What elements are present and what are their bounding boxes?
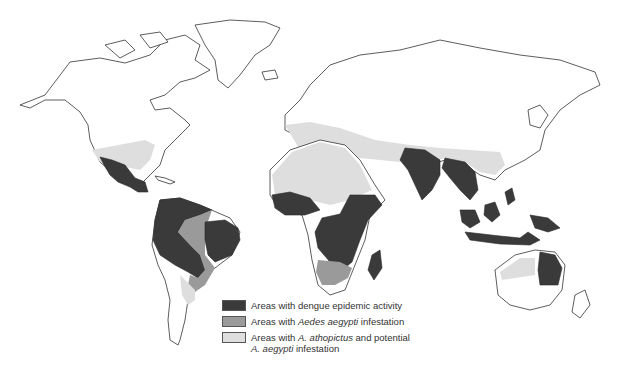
africa	[270, 140, 385, 295]
legend-text: Areas with	[251, 332, 298, 343]
legend-swatch-light	[222, 332, 246, 343]
legend-swatch-medium	[222, 316, 246, 327]
legend-item-dengue-epidemic: Areas with dengue epidemic activity	[222, 300, 462, 311]
map-legend: Areas with dengue epidemic activity Area…	[222, 300, 462, 359]
world-map: Areas with dengue epidemic activity Area…	[0, 0, 623, 377]
legend-species: A. athopictus	[298, 332, 353, 343]
legend-species: A. aegypti	[251, 343, 293, 354]
legend-label-dengue-epidemic: Areas with dengue epidemic activity	[251, 300, 402, 311]
australia	[495, 250, 590, 318]
north-america	[20, 20, 280, 192]
legend-species: Aedes aegypti	[298, 316, 358, 327]
legend-label-albopictus: Areas with A. athopictus and potentialA.…	[251, 332, 410, 354]
legend-text: infestation	[358, 316, 404, 327]
southeast-asia	[460, 188, 560, 245]
legend-text: Areas with	[251, 316, 298, 327]
legend-swatch-dark	[222, 300, 246, 311]
legend-label-aedes-aegypti: Areas with Aedes aegypti infestation	[251, 316, 404, 327]
legend-text: and potential	[353, 332, 410, 343]
legend-text: infestation	[293, 343, 339, 354]
legend-item-albopictus: Areas with A. athopictus and potentialA.…	[222, 332, 462, 354]
legend-item-aedes-aegypti: Areas with Aedes aegypti infestation	[222, 316, 462, 327]
